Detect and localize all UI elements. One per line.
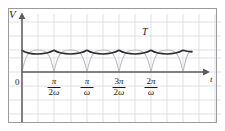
x-tick-4-denominator-symbol: ω [148,88,154,97]
x-tick-1-numerator-symbol: π [52,77,57,86]
x-tick-2-denominator-symbol: ω [84,88,90,97]
figure-border [9,9,217,123]
x-axis [22,69,210,76]
x-tick-3-denominator: 2ω [113,88,126,97]
x-tick-2-numerator-symbol: π [85,77,90,86]
x-tick-3-numerator: 3π [113,77,124,86]
x-tick-4-denominator: ω [147,88,155,97]
x-tick-label-4: 2π ω [145,77,158,98]
y-axis-label: V [9,9,16,20]
waveform-plot [0,0,225,131]
x-tick-1-denominator-symbol: ω [53,88,59,97]
x-tick-4-numerator-symbol: π [151,77,156,86]
x-tick-1-denominator: 2ω [48,88,61,97]
x-tick-label-2: π ω [81,77,94,98]
period-annotation-label: T [142,27,148,37]
grid-lines [8,14,221,122]
y-axis [19,13,26,123]
x-tick-1-numerator: π [51,77,58,86]
x-tick-2-denominator: ω [83,88,91,97]
origin-label: 0 [15,78,20,87]
x-tick-label-1: π 2ω [48,77,61,98]
x-tick-2-numerator: π [84,77,91,86]
x-tick-3-denominator-symbol: ω [118,88,124,97]
rectified-waveform-figure: V t 0 T π 2ω π ω 3π 2ω 2π [0,0,225,131]
x-tick-label-3: 3π 2ω [113,77,126,98]
x-tick-4-numerator: 2π [145,77,156,86]
x-axis-label: t [210,75,213,84]
x-tick-3-numerator-symbol: π [119,77,124,86]
